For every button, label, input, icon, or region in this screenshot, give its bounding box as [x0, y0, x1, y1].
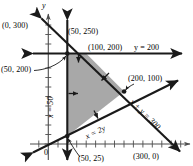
origin-label: 0 — [44, 149, 48, 157]
line-label-y-200: y = 200 — [134, 44, 159, 52]
y-axis-label: y — [42, 2, 46, 10]
point-label-50-200: (50, 200) — [1, 66, 31, 74]
linear-programming-figure: y (0, 300) (50, 250) (100, 200) y = 200 … — [0, 0, 193, 166]
point-label-50-25: (50, 25) — [78, 155, 104, 163]
line-label-x-50: x = 50 — [47, 96, 55, 118]
constraint-line-x-plus-y-300 — [42, 19, 181, 152]
point-label-200-100: (200, 100) — [128, 75, 162, 83]
shaded-feasible-region — [67, 54, 124, 137]
y-axis — [45, 14, 52, 160]
point-label-100-200: (100, 200) — [88, 44, 122, 52]
point-label-50-250: (50, 250) — [68, 28, 98, 36]
point-label-0-300: (0, 300) — [2, 22, 28, 30]
figure-canvas — [0, 0, 193, 166]
point-label-300-0: (300, 0) — [133, 153, 159, 161]
